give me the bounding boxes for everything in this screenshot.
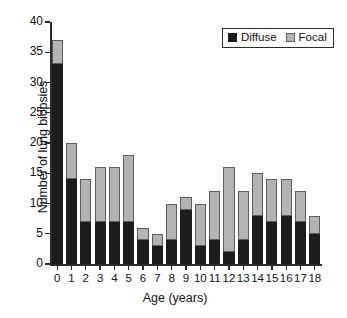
bar-segment-diffuse-age-12 (223, 252, 234, 264)
x-tick-label-13: 13 (237, 272, 250, 284)
y-tick-10 (45, 203, 50, 204)
bar-segment-diffuse-age-2 (80, 222, 91, 264)
x-tick-16 (286, 265, 287, 270)
y-tick-15 (45, 173, 50, 174)
y-tick-label-35: 35 (30, 44, 43, 58)
bar-segment-diffuse-age-3 (95, 222, 106, 264)
x-tick-label-0: 0 (54, 272, 60, 284)
x-axis-title: Age (years) (45, 291, 305, 305)
bar-age-1 (66, 143, 77, 264)
bar-age-13 (238, 191, 249, 264)
x-tick-label-11: 11 (209, 272, 221, 284)
x-tick-label-12: 12 (223, 272, 236, 284)
y-tick-label-40: 40 (30, 14, 43, 28)
y-tick-label-30: 30 (30, 75, 43, 89)
bar-segment-diffuse-age-16 (281, 216, 292, 264)
bar-segment-focal-age-7 (152, 234, 163, 246)
x-tick-label-6: 6 (140, 272, 146, 284)
y-tick-30 (45, 82, 50, 83)
bar-segment-diffuse-age-7 (152, 246, 163, 264)
x-tick-label-10: 10 (194, 272, 207, 284)
bar-age-15 (266, 179, 277, 264)
legend-label-diffuse: Diffuse (241, 32, 277, 44)
bar-segment-diffuse-age-10 (195, 246, 206, 264)
x-tick-label-2: 2 (83, 272, 89, 284)
x-tick-label-17: 17 (294, 272, 307, 284)
y-tick-label-10: 10 (30, 196, 43, 210)
y-tick-label-25: 25 (30, 105, 43, 119)
x-tick-18 (314, 265, 315, 270)
bar-segment-focal-age-15 (266, 179, 277, 221)
bar-segment-diffuse-age-9 (180, 210, 191, 264)
bar-segment-diffuse-age-4 (109, 222, 120, 264)
bar-segment-diffuse-age-1 (66, 179, 77, 264)
x-tick-11 (214, 265, 215, 270)
bar-age-6 (137, 228, 148, 264)
bar-segment-focal-age-1 (66, 143, 77, 179)
bar-segment-focal-age-0 (52, 40, 63, 64)
x-tick-3 (99, 265, 100, 270)
bar-segment-focal-age-2 (80, 179, 91, 221)
y-tick-40 (45, 21, 50, 22)
x-tick-label-18: 18 (308, 272, 321, 284)
bar-age-14 (252, 173, 263, 264)
y-tick-20 (45, 142, 50, 143)
bar-age-17 (295, 191, 306, 264)
legend-entry-diffuse: Diffuse (228, 32, 277, 44)
y-tick-0 (45, 263, 50, 264)
bar-segment-diffuse-age-13 (238, 240, 249, 264)
bar-segment-focal-age-6 (137, 228, 148, 240)
x-tick-label-15: 15 (265, 272, 278, 284)
y-tick-25 (45, 112, 50, 113)
y-tick-label-15: 15 (30, 165, 43, 179)
x-tick-4 (114, 265, 115, 270)
bar-age-12 (223, 167, 234, 264)
y-tick-5 (45, 233, 50, 234)
x-tick-label-8: 8 (168, 272, 174, 284)
bar-segment-diffuse-age-8 (166, 240, 177, 264)
x-tick-17 (300, 265, 301, 270)
bar-segment-focal-age-4 (109, 167, 120, 221)
x-tick-label-5: 5 (126, 272, 132, 284)
x-tick-label-4: 4 (111, 272, 117, 284)
bar-age-4 (109, 167, 120, 264)
bar-segment-focal-age-14 (252, 173, 263, 215)
bar-age-3 (95, 167, 106, 264)
bar-segment-diffuse-age-14 (252, 216, 263, 264)
bar-segment-focal-age-9 (180, 197, 191, 209)
bar-segment-focal-age-18 (309, 216, 320, 234)
x-tick-14 (257, 265, 258, 270)
x-tick-label-9: 9 (183, 272, 189, 284)
bar-segment-focal-age-16 (281, 179, 292, 215)
bar-segment-diffuse-age-17 (295, 222, 306, 264)
bar-segment-focal-age-8 (166, 204, 177, 240)
bar-segment-focal-age-13 (238, 191, 249, 239)
legend-entry-focal: Focal (286, 32, 327, 44)
bar-segment-focal-age-5 (123, 155, 134, 222)
bar-age-11 (209, 191, 220, 264)
x-tick-12 (228, 265, 229, 270)
bar-segment-focal-age-10 (195, 204, 206, 246)
bar-age-18 (309, 216, 320, 264)
bar-segment-focal-age-12 (223, 167, 234, 252)
x-tick-7 (157, 265, 158, 270)
x-tick-10 (200, 265, 201, 270)
x-tick-label-1: 1 (68, 272, 74, 284)
legend-label-focal: Focal (299, 32, 327, 44)
x-tick-2 (85, 265, 86, 270)
bar-age-10 (195, 204, 206, 265)
x-tick-label-16: 16 (280, 272, 293, 284)
bar-segment-diffuse-age-0 (52, 64, 63, 264)
plot-area: 0510152025303540 01234567891011121314151… (50, 22, 322, 264)
x-tick-0 (57, 265, 58, 270)
bar-age-5 (123, 155, 134, 264)
x-tick-label-14: 14 (251, 272, 264, 284)
bar-segment-diffuse-age-15 (266, 222, 277, 264)
x-tick-label-7: 7 (154, 272, 160, 284)
bar-segment-focal-age-11 (209, 191, 220, 239)
x-tick-5 (128, 265, 129, 270)
bar-segment-diffuse-age-5 (123, 222, 134, 264)
bar-age-8 (166, 204, 177, 265)
x-tick-label-3: 3 (97, 272, 103, 284)
bar-segment-diffuse-age-6 (137, 240, 148, 264)
